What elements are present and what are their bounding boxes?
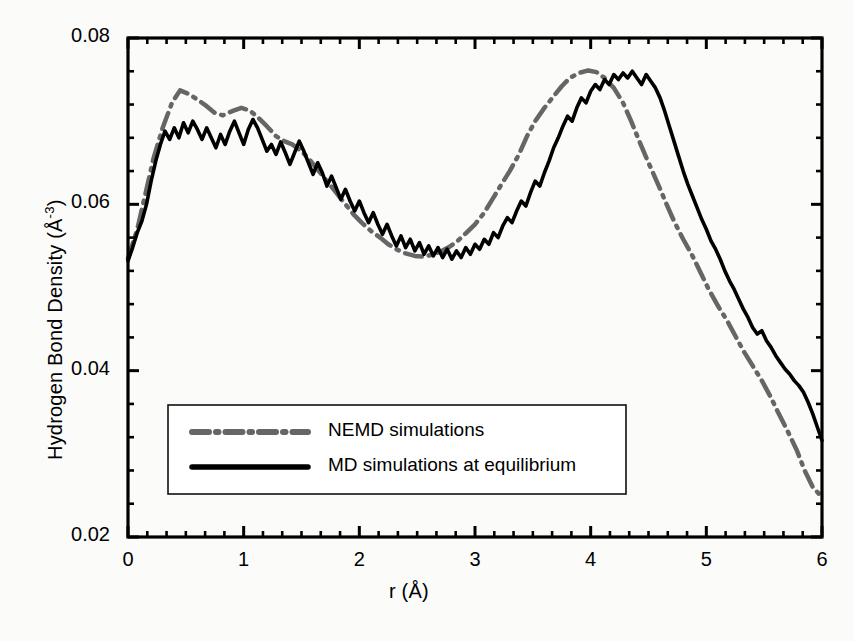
figure-container: Hydrogen Bond Density (Å-3) r (Å) 012345…: [0, 0, 854, 641]
y-axis-title: Hydrogen Bond Density (Å-3): [42, 199, 67, 460]
y-tick-label: 0.02: [2, 523, 110, 546]
y-tick-label: 0.04: [2, 357, 110, 380]
series-line-2: [128, 71, 822, 440]
x-tick-label: 2: [334, 548, 384, 571]
x-tick-label: 6: [797, 548, 847, 571]
x-tick-label: 1: [219, 548, 269, 571]
y-tick-label: 0.06: [2, 190, 110, 213]
x-tick-label: 5: [681, 548, 731, 571]
x-tick-label: 4: [566, 548, 616, 571]
y-tick-label: 0.08: [2, 24, 110, 47]
x-tick-label: 0: [103, 548, 153, 571]
legend-label-2: MD simulations at equilibrium: [328, 454, 576, 476]
y-axis-title-main: Hydrogen Bond Density (Å: [44, 218, 66, 460]
plot-canvas: [0, 0, 854, 641]
x-tick-label: 3: [450, 548, 500, 571]
legend-label-1: NEMD simulations: [328, 419, 484, 441]
x-axis-title: r (Å): [389, 580, 429, 603]
